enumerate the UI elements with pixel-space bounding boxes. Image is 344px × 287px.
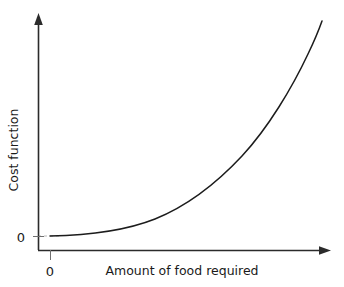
cost-function-chart: 0 0 Cost function Amount of food require… <box>0 0 344 287</box>
y-axis-zero-label: 0 <box>17 230 25 245</box>
chart-background <box>0 0 344 287</box>
y-axis-title: Cost function <box>6 109 21 192</box>
x-axis-title: Amount of food required <box>105 263 258 278</box>
x-axis-zero-label: 0 <box>46 264 54 279</box>
